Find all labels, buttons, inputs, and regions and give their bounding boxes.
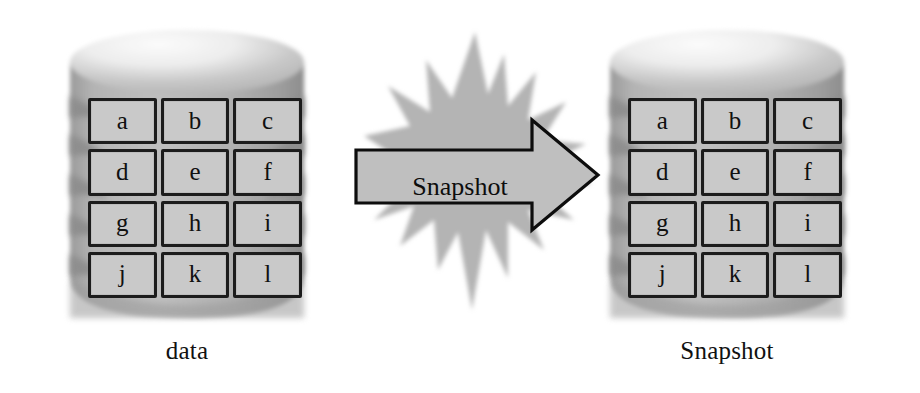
data-cell-label: a xyxy=(117,108,128,133)
database-cylinder-snapshot: a b c d e f g h i j k l xyxy=(602,18,852,328)
data-cell-label: l xyxy=(804,261,811,286)
data-cell-label: e xyxy=(189,159,200,184)
data-cell[interactable]: d xyxy=(628,149,697,195)
data-cell-label: l xyxy=(264,261,271,286)
data-cell[interactable]: e xyxy=(161,149,230,195)
data-cell[interactable]: a xyxy=(88,98,157,144)
data-cell[interactable]: c xyxy=(773,98,842,144)
data-cell[interactable]: g xyxy=(628,201,697,247)
data-cell-label: k xyxy=(189,261,202,286)
data-cell[interactable]: h xyxy=(701,201,770,247)
data-cell-grid-left: a b c d e f g h i j k l xyxy=(88,98,302,298)
data-cell-label: f xyxy=(263,159,271,184)
data-cell[interactable]: i xyxy=(773,201,842,247)
data-cell-label: g xyxy=(656,210,669,235)
data-cell[interactable]: l xyxy=(233,252,302,298)
data-cell[interactable]: k xyxy=(701,252,770,298)
data-cell-label: h xyxy=(189,210,202,235)
data-cell[interactable]: g xyxy=(88,201,157,247)
data-cell-label: a xyxy=(657,108,668,133)
data-cell-label: j xyxy=(119,261,126,286)
data-cell[interactable]: j xyxy=(88,252,157,298)
data-cell-label: b xyxy=(189,108,202,133)
data-cell[interactable]: a xyxy=(628,98,697,144)
data-cell-label: c xyxy=(262,108,273,133)
caption-snapshot: Snapshot xyxy=(602,337,852,365)
data-cell-label: i xyxy=(264,210,271,235)
snapshot-transition: Snapshot xyxy=(330,24,620,324)
data-cell[interactable]: b xyxy=(161,98,230,144)
data-cell[interactable]: l xyxy=(773,252,842,298)
data-cell-grid-right: a b c d e f g h i j k l xyxy=(628,98,842,298)
data-cell-label: c xyxy=(802,108,813,133)
data-cell-label: j xyxy=(659,261,666,286)
data-cell-label: i xyxy=(804,210,811,235)
snapshot-arrow xyxy=(330,24,620,324)
data-cell[interactable]: i xyxy=(233,201,302,247)
data-cell[interactable]: c xyxy=(233,98,302,144)
data-cell[interactable]: h xyxy=(161,201,230,247)
data-cell-label: e xyxy=(729,159,740,184)
data-cell-label: d xyxy=(116,159,129,184)
diagram-canvas: a b c d e f g h i j k l data xyxy=(0,0,920,393)
data-cell[interactable]: k xyxy=(161,252,230,298)
data-cell-label: k xyxy=(729,261,742,286)
data-cell-label: d xyxy=(656,159,669,184)
database-cylinder-data: a b c d e f g h i j k l xyxy=(62,18,312,328)
caption-data: data xyxy=(62,337,312,365)
data-cell[interactable]: e xyxy=(701,149,770,195)
data-cell[interactable]: f xyxy=(233,149,302,195)
data-cell[interactable]: b xyxy=(701,98,770,144)
data-cell-label: b xyxy=(729,108,742,133)
data-cell-label: f xyxy=(803,159,811,184)
data-cell[interactable]: f xyxy=(773,149,842,195)
data-cell[interactable]: j xyxy=(628,252,697,298)
data-cell[interactable]: d xyxy=(88,149,157,195)
data-cell-label: h xyxy=(729,210,742,235)
data-cell-label: g xyxy=(116,210,129,235)
